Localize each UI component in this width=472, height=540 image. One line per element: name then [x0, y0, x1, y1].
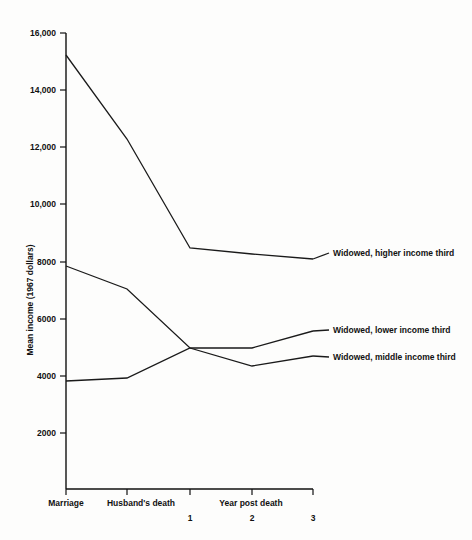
- chart-page: 16,000 14,000 12,000 10,000 8000 6000 40…: [0, 0, 472, 540]
- series-line-higher-income-third: [66, 55, 313, 259]
- y-tick-label-4000: 4000: [37, 371, 56, 381]
- y-axis-title: Mean income (1967 dollars): [25, 244, 35, 355]
- series-leader-middle-income-third: [313, 356, 329, 357]
- y-tick-label-14000: 14,000: [30, 85, 56, 95]
- series-label-higher-income-third: Widowed, higher income third: [333, 248, 454, 258]
- y-tick-label-12000: 12,000: [30, 142, 56, 152]
- income-line-chart: 16,000 14,000 12,000 10,000 8000 6000 40…: [0, 0, 472, 540]
- y-tick-label-10000: 10,000: [30, 199, 56, 209]
- x-label-year-3: 3: [311, 513, 316, 523]
- y-tick-label-16000: 16,000: [30, 28, 56, 38]
- x-label-year-2: 2: [250, 513, 255, 523]
- x-label-husband-death: Husband's death: [107, 498, 175, 508]
- y-tick-label-6000: 6000: [37, 314, 56, 324]
- x-group-label-year-post-death: Year post death: [219, 498, 282, 508]
- y-tick-label-2000: 2000: [37, 428, 56, 438]
- series-label-lower-income-third: Widowed, lower income third: [333, 325, 451, 335]
- series-line-middle-income-third: [66, 266, 313, 366]
- x-label-marriage: Marriage: [48, 498, 84, 508]
- series-leader-higher-income-third: [313, 253, 329, 259]
- series-label-middle-income-third: Widowed, middle income third: [333, 352, 456, 362]
- x-label-year-1: 1: [188, 513, 193, 523]
- series-line-lower-income-third: [66, 331, 313, 381]
- y-tick-label-8000: 8000: [37, 257, 56, 267]
- series-leader-lower-income-third: [313, 330, 329, 331]
